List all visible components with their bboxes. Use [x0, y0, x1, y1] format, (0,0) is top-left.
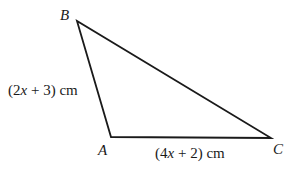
side-ac-length-label: (4x + 2) cm [155, 145, 225, 162]
triangle-diagram: B A C (2x + 3) cm (4x + 2) cm [0, 0, 298, 172]
vertex-label-c: C [273, 141, 284, 157]
side-ab-length-label: (2x + 3) cm [8, 82, 78, 99]
vertex-label-b: B [60, 7, 69, 23]
triangle-abc [77, 21, 271, 138]
vertex-label-a: A [97, 142, 108, 158]
